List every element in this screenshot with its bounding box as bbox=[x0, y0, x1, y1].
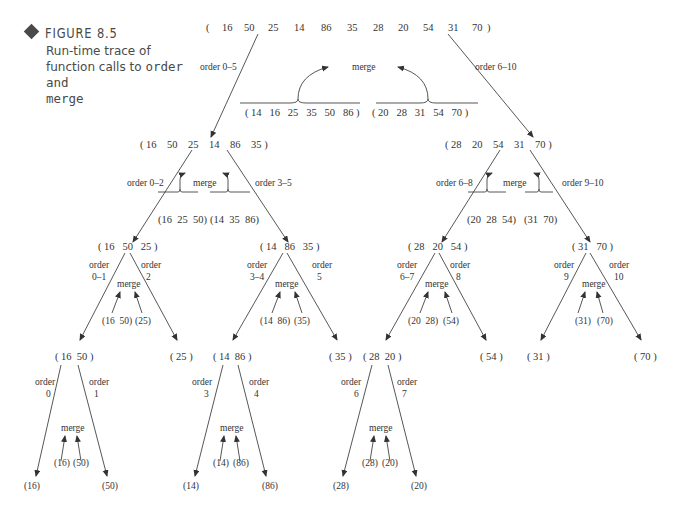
call-label: 4 bbox=[254, 389, 259, 399]
root-item: 86 bbox=[321, 22, 332, 33]
merge-input: (31) bbox=[575, 316, 591, 327]
merge-input: (54) bbox=[443, 316, 459, 327]
level3-group-1: order 3–4 order 5 merge (14 86) (35) ( 1… bbox=[213, 260, 352, 363]
merge-label: merge bbox=[193, 178, 217, 188]
root-item: 28 bbox=[373, 22, 384, 33]
merged-list: ( 14 16 25 35 50 86 ) bbox=[245, 107, 360, 119]
merged-list: (14 35 86) bbox=[210, 214, 259, 226]
call-label: order 6–10 bbox=[475, 62, 517, 72]
merge-label: merge bbox=[369, 423, 393, 433]
sublist-node: ( 35 ) bbox=[329, 351, 352, 363]
merged-list: (31 70) bbox=[524, 214, 558, 226]
merged-list: (20 28 54) bbox=[467, 214, 516, 226]
call-label: order 6–8 bbox=[436, 178, 473, 188]
merge-input: (70) bbox=[597, 316, 613, 327]
merged-list: (16 25 50) bbox=[158, 214, 207, 226]
merge-label: merge bbox=[582, 279, 606, 289]
call-label: 6–7 bbox=[400, 272, 415, 282]
call-label: order bbox=[450, 260, 471, 270]
root-item: 20 bbox=[398, 22, 409, 33]
root-item: 35 bbox=[347, 22, 358, 33]
level4-group-2: order 6 order 7 merge (28) (20) (28) (20… bbox=[333, 377, 427, 492]
merge-input: (28) bbox=[362, 458, 378, 469]
leaf-node: (14) bbox=[183, 481, 199, 492]
sublist-node: ( 25 ) bbox=[170, 351, 193, 363]
merge-bracket-left bbox=[240, 99, 360, 103]
sublist-node: ( 16 50 25 ) bbox=[98, 241, 158, 253]
call-label: order bbox=[554, 260, 575, 270]
merge-input: (50) bbox=[73, 458, 89, 469]
call-label: 7 bbox=[402, 389, 407, 399]
leaf-node: (28) bbox=[333, 481, 349, 492]
call-label: order bbox=[397, 260, 418, 270]
root-item: 50 bbox=[244, 22, 255, 33]
call-label: 3 bbox=[204, 389, 209, 399]
svg-text:): ) bbox=[487, 22, 491, 34]
level3-group-2: order 6–7 order 8 merge (20 28) (54) ( 2… bbox=[363, 260, 503, 363]
call-label: 6 bbox=[354, 389, 359, 399]
call-label: order bbox=[249, 377, 270, 387]
call-label: order bbox=[397, 377, 418, 387]
call-label: 0–1 bbox=[92, 272, 107, 282]
call-label: 2 bbox=[146, 272, 151, 282]
call-label: 8 bbox=[456, 272, 461, 282]
level3-group-3: order 9 order 10 merge (31) (70) ( 31 ) … bbox=[527, 260, 657, 363]
merge-label: merge bbox=[220, 423, 244, 433]
call-label: order 0–5 bbox=[200, 62, 237, 72]
sublist-node: ( 14 86 ) bbox=[213, 351, 252, 363]
leaf-node: (50) bbox=[102, 481, 118, 492]
call-label: 3–4 bbox=[250, 272, 265, 282]
sublist-node: ( 54 ) bbox=[480, 351, 503, 363]
leaf-node: (20) bbox=[411, 481, 427, 492]
sublist-node: ( 28 20 54 31 70 ) bbox=[445, 139, 552, 151]
sublist-node: ( 28 20 54 ) bbox=[408, 241, 468, 253]
call-label: order bbox=[35, 377, 56, 387]
call-label: order bbox=[141, 260, 162, 270]
merge-label: merge bbox=[61, 423, 85, 433]
root-list: ( 16 50 25 14 86 35 28 20 54 31 70 ) bbox=[206, 22, 491, 34]
merge-input: (20 28) bbox=[408, 316, 438, 327]
merge-input: (20) bbox=[382, 458, 398, 469]
call-label: order bbox=[89, 260, 110, 270]
root-item: 31 bbox=[448, 22, 459, 33]
leaf-node: (86) bbox=[262, 481, 278, 492]
level4-group-1: order 3 order 4 merge (14) (86) (14) (86… bbox=[183, 377, 278, 492]
leaf-node: (16) bbox=[24, 481, 40, 492]
sublist-node: ( 31 70 ) bbox=[572, 241, 614, 253]
merge-input: (35) bbox=[294, 316, 310, 327]
sublist-node: ( 28 20 ) bbox=[363, 351, 402, 363]
call-label: order bbox=[89, 377, 110, 387]
merge-label: merge bbox=[503, 178, 527, 188]
call-label: order 3–5 bbox=[255, 178, 292, 188]
call-label: order bbox=[247, 260, 268, 270]
merge-label: merge bbox=[275, 279, 299, 289]
root-item: 70 bbox=[472, 22, 483, 33]
merge-label: merge bbox=[352, 62, 376, 72]
svg-text:(: ( bbox=[206, 22, 210, 34]
call-label: 9 bbox=[564, 272, 569, 282]
sublist-node: ( 70 ) bbox=[634, 351, 657, 363]
merge-return-arrow-right bbox=[398, 67, 428, 99]
merge-bracket-right bbox=[376, 99, 478, 103]
merge-input: (16) bbox=[54, 458, 70, 469]
level3-group-0: order 0–1 order 2 merge (16 50) (25) ( 1… bbox=[55, 260, 193, 363]
call-arrow-order-0-5 bbox=[211, 34, 258, 137]
merge-label: merge bbox=[117, 279, 141, 289]
sublist-node: ( 16 50 25 14 86 35 ) bbox=[140, 139, 268, 151]
root-item: 54 bbox=[423, 22, 434, 33]
root-item: 16 bbox=[222, 22, 233, 33]
level4-group-0: order 0 order 1 merge (16) (50) (16) (50… bbox=[24, 377, 118, 492]
sublist-node: ( 31 ) bbox=[527, 351, 550, 363]
call-arrow-order-6-10 bbox=[448, 34, 533, 137]
call-label: 1 bbox=[94, 389, 99, 399]
merge-input: (14) bbox=[213, 458, 229, 469]
call-label: order bbox=[341, 377, 362, 387]
call-label: order bbox=[192, 377, 213, 387]
sublist-node: ( 14 86 35 ) bbox=[260, 241, 320, 253]
root-item: 25 bbox=[268, 22, 279, 33]
sublist-node: ( 16 50 ) bbox=[55, 351, 94, 363]
call-label: order bbox=[609, 260, 630, 270]
merge-sort-trace-diagram: ( 16 50 25 14 86 35 28 20 54 31 70 ) ord… bbox=[0, 0, 677, 516]
merge-input: (16 50) bbox=[102, 316, 132, 327]
merge-input: (25) bbox=[135, 316, 151, 327]
